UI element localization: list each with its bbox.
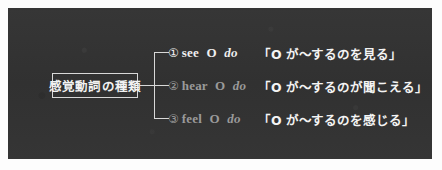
connector-branch-2 (154, 85, 169, 86)
root-node-label: 感覚動詞の種類 (49, 76, 141, 95)
japanese-gloss-1: 「O が〜するのを見る」 (258, 44, 402, 63)
root-node-box: 感覚動詞の種類 (52, 73, 138, 98)
pattern-formula-3: feel O do (182, 111, 241, 127)
object-label-3: O (210, 111, 220, 126)
connector-stem (138, 85, 155, 86)
japanese-gloss-3: 「O が〜するのを感じる」 (258, 110, 415, 129)
item-marker-3: ③ (168, 112, 179, 126)
verb-label-2: hear (182, 78, 208, 93)
item-marker-1: ① (168, 46, 179, 60)
item-marker-2: ② (168, 79, 179, 93)
connector-branch-3 (154, 118, 169, 119)
verb-label-3: feel (182, 111, 202, 126)
connector-branch-1 (154, 52, 169, 53)
pattern-row: ③ feel O do 「O が〜するのを感じる」 (168, 109, 241, 129)
verb-label-1: see (182, 45, 199, 60)
pattern-formula-2: hear O do (182, 78, 246, 94)
japanese-gloss-2: 「O が〜するのが聞こえる」 (258, 77, 428, 96)
diagram-panel: 感覚動詞の種類 ① see O do 「O が〜するのを見る」 ② hear O… (8, 8, 432, 159)
pattern-row: ② hear O do 「O が〜するのが聞こえる」 (168, 76, 246, 96)
pattern-row: ① see O do 「O が〜するのを見る」 (168, 43, 238, 63)
complement-label-1: do (224, 45, 237, 60)
figure-root: 感覚動詞の種類 ① see O do 「O が〜するのを見る」 ② hear O… (0, 0, 442, 170)
object-label-2: O (215, 78, 225, 93)
complement-label-2: do (233, 78, 246, 93)
pattern-formula-1: see O do (182, 45, 238, 61)
complement-label-3: do (227, 111, 240, 126)
object-label-1: O (206, 45, 216, 60)
